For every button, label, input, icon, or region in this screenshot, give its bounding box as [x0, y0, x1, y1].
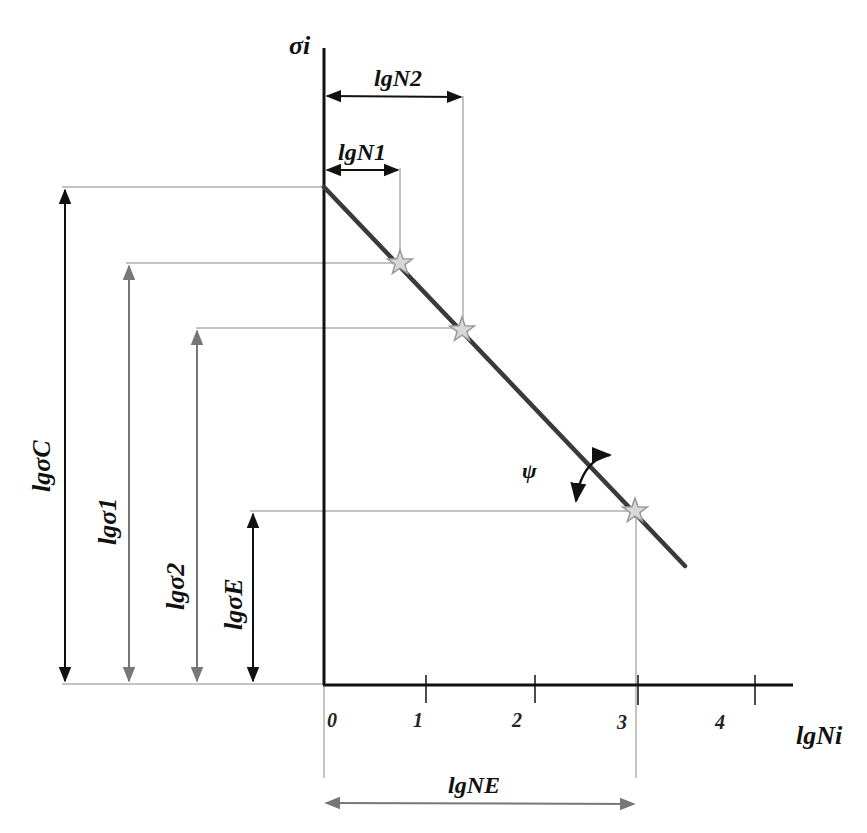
x-tick-4: 4 — [714, 711, 725, 733]
angle-psi-label: ψ — [522, 458, 537, 483]
guide-lines — [62, 96, 636, 778]
angle-psi-arc — [576, 455, 610, 501]
x-tick-1: 1 — [413, 709, 423, 731]
lgSigma2-label: lgσ2 — [161, 563, 190, 610]
star-markers — [388, 250, 648, 522]
lgNE-arrow — [326, 803, 634, 804]
lgN1-label: lgN1 — [338, 139, 386, 165]
x-tick-0: 0 — [327, 709, 337, 731]
x-axis-label: lgNi — [796, 721, 843, 750]
sn-curve-diagram: ψ σi lgNi 0 1 2 3 4 lgN2 lgN1 lgNE lgσC … — [0, 0, 867, 833]
lgSigma1-label: lgσ1 — [93, 498, 122, 545]
lgN2-arrow — [327, 96, 461, 97]
lgNE-label: lgNE — [448, 772, 500, 798]
x-tick-3: 3 — [616, 711, 627, 733]
lgSigmaC-label: lgσC — [27, 440, 56, 492]
x-tick-2: 2 — [511, 709, 522, 731]
x-ticks — [426, 675, 755, 705]
lgN2-label: lgN2 — [374, 65, 422, 91]
lgSigmaE-label: lgσE — [219, 578, 248, 630]
y-axis-label: σi — [289, 31, 311, 60]
